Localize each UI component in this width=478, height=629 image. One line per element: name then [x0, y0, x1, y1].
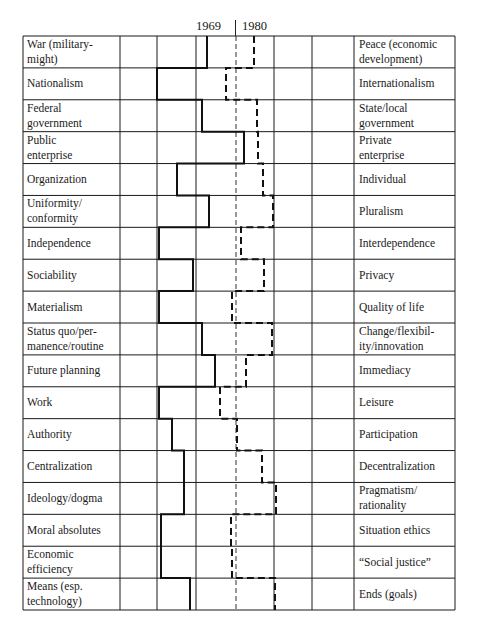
right-label: Pragmatism/rationality [359, 482, 453, 514]
left-label: Work [27, 387, 118, 419]
left-label: Centralization [27, 451, 118, 483]
left-label: Publicenterprise [27, 132, 118, 164]
right-label: Situation ethics [359, 514, 453, 546]
left-label: Uniformity/conformity [27, 195, 118, 227]
left-label: Materialism [27, 291, 118, 323]
left-label: Means (esp.technology) [27, 578, 118, 610]
right-label: State/localgovernment [359, 100, 453, 132]
left-label: Moral absolutes [27, 514, 118, 546]
right-label: Privacy [359, 259, 453, 291]
left-label: Independence [27, 227, 118, 259]
left-label: Authority [27, 419, 118, 451]
right-label: Quality of life [359, 291, 453, 323]
left-label: Status quo/per-manence/routine [27, 323, 118, 355]
left-label: Nationalism [27, 68, 118, 100]
right-label: Change/flexibil-ity/innovation [359, 323, 453, 355]
right-label: “Social justice” [359, 546, 453, 578]
right-label: Ends (goals) [359, 578, 453, 610]
left-label: Federalgovernment [27, 100, 118, 132]
right-label: Participation [359, 419, 453, 451]
right-label: Interdependence [359, 227, 453, 259]
right-label: Privateenterprise [359, 132, 453, 164]
right-label: Immediacy [359, 355, 453, 387]
right-label: Internationalism [359, 68, 453, 100]
left-label: Ideology/dogma [27, 482, 118, 514]
right-label: Individual [359, 164, 453, 196]
right-label: Pluralism [359, 195, 453, 227]
right-label: Decentralization [359, 451, 453, 483]
left-label: Economicefficiency [27, 546, 118, 578]
left-label: Future planning [27, 355, 118, 387]
left-label: Sociability [27, 259, 118, 291]
right-label: Leisure [359, 387, 453, 419]
left-label: Organization [27, 164, 118, 196]
right-label: Peace (economicdevelopment) [359, 36, 453, 68]
left-label: War (military-might) [27, 36, 118, 68]
